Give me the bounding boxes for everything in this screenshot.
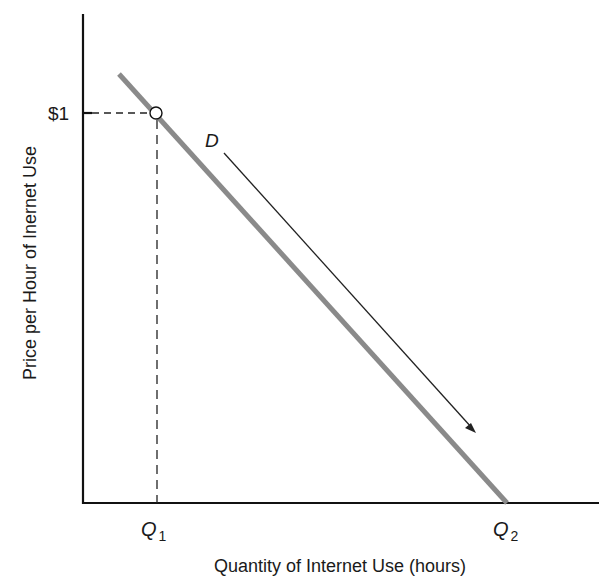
x-tick-label-q2: Q2 <box>493 518 519 544</box>
y-axis-title: Price per Hour of Inernet Use <box>20 146 40 380</box>
x-tick-label-q1: Q1 <box>141 518 167 544</box>
price-quantity-point <box>150 107 162 119</box>
demand-curve <box>119 74 507 503</box>
demand-label: D <box>205 130 219 151</box>
movement-arrow <box>224 153 472 428</box>
x-axis-title: Quantity of Internet Use (hours) <box>214 556 466 576</box>
arrow-head-icon <box>465 423 476 433</box>
y-tick-label: $1 <box>48 103 69 124</box>
demand-chart: D $1 Q1 Q2 Quantity of Internet Use (hou… <box>0 0 609 586</box>
